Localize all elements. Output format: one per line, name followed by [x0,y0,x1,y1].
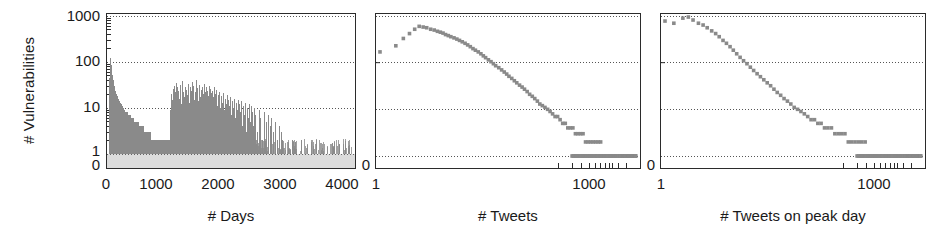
panel1-series-bars [107,14,355,168]
panel1-xtick-0: 0 [86,176,126,191]
panel1-x-axis-title: # Days [151,208,311,223]
panel2-xtick-1000: 1000 [562,176,616,191]
panel3-ytick-0: 0 [633,157,655,172]
panel1-ytick-10: 10 [34,99,100,114]
panel1-ytick-1000: 1000 [34,8,100,23]
panel1-plot-frame [106,13,356,169]
panel2-series-points [376,14,640,168]
panel-vulnerabilities-vs-tweets: 0 1 1000 # Tweets [366,0,651,250]
panel-vulnerabilities-vs-peak-day-tweets: 0 1 1000 # Tweets on peak day [651,0,936,250]
panel3-plot-area [661,14,925,168]
panel1-xtick-3000: 3000 [255,176,305,191]
panel3-xtick-1000: 1000 [847,176,901,191]
panel1-ytick-0: 0 [34,157,100,172]
panel1-ytick-100: 100 [34,53,100,68]
panel2-ytick-0: 0 [348,157,370,172]
panel3-xtick-1: 1 [650,176,672,191]
panel3-plot-frame [660,13,926,169]
figure-root: # Vulnerabilities 1000 100 10 1 0 0 1000… [0,0,936,250]
panel2-xtick-1: 1 [365,176,387,191]
panel1-xtick-2000: 2000 [193,176,243,191]
panel1-plot-area [107,14,355,168]
panel2-x-axis-title: # Tweets [428,208,588,223]
panel1-xtick-4000: 4000 [317,176,367,191]
panel1-xtick-1000: 1000 [131,176,181,191]
panel-vulnerabilities-vs-days: # Vulnerabilities 1000 100 10 1 0 0 1000… [0,0,366,250]
panel2-plot-frame [375,13,641,169]
panel3-series-points [661,14,925,168]
panel1-ytick-1: 1 [34,143,100,158]
panel2-plot-area [376,14,640,168]
panel3-x-axis-title: # Tweets on peak day [693,208,893,223]
